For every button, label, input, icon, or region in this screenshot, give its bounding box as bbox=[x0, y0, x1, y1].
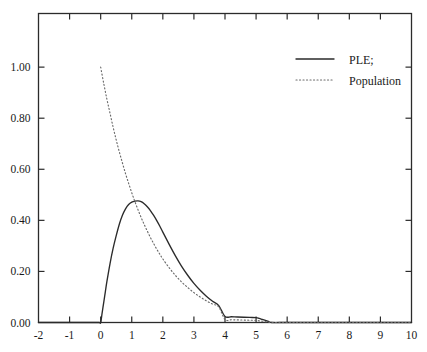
y-tick-label: 1.00 bbox=[10, 61, 30, 73]
legend-label: Population bbox=[349, 74, 401, 88]
x-tick-label: 4 bbox=[222, 329, 228, 341]
legend-label: PLE; bbox=[349, 53, 374, 67]
y-tick-label: 0.20 bbox=[10, 265, 30, 277]
plot-canvas: -2-1012345678910 0.000.200.400.600.801.0… bbox=[0, 0, 427, 352]
x-tick-label: 0 bbox=[98, 329, 104, 341]
x-tick-label: -2 bbox=[34, 329, 44, 341]
x-tick-label: 9 bbox=[378, 329, 384, 341]
y-tick-label: 0.00 bbox=[10, 317, 30, 329]
y-tick-label: 0.40 bbox=[10, 214, 30, 226]
y-tick-label: 0.80 bbox=[10, 112, 30, 124]
x-tick-label: -1 bbox=[65, 329, 75, 341]
x-tick-label: 3 bbox=[191, 329, 197, 341]
x-tick-label: 6 bbox=[284, 329, 290, 341]
x-tick-label: 2 bbox=[160, 329, 166, 341]
x-tick-label: 1 bbox=[129, 329, 135, 341]
y-tick-label: 0.60 bbox=[10, 163, 30, 175]
x-tick-label: 10 bbox=[406, 329, 418, 341]
x-tick-label: 8 bbox=[346, 329, 352, 341]
x-tick-label: 7 bbox=[315, 329, 321, 341]
chart-figure: -2-1012345678910 0.000.200.400.600.801.0… bbox=[0, 0, 427, 352]
x-tick-label: 5 bbox=[253, 329, 259, 341]
